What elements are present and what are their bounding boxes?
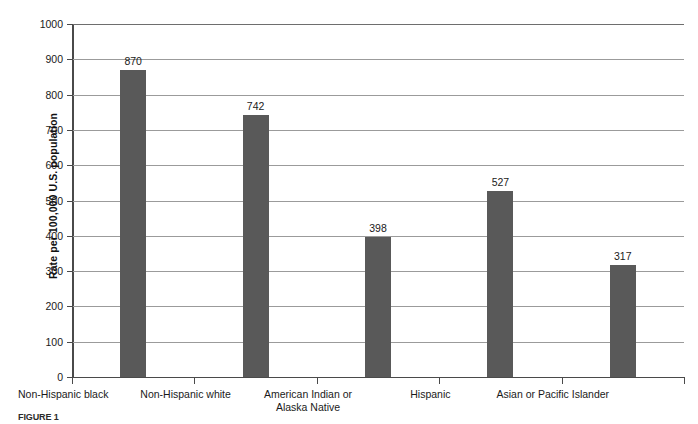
y-tick-label-600: 600 [45,159,63,171]
y-tick-700 [67,130,73,131]
x-axis-category-label-line1: Non-Hispanic white [116,388,256,401]
gridline-800 [72,95,684,96]
x-axis-category-label-line1: Asian or Pacific Islander [483,388,623,401]
x-axis-category-label-line1: Non-Hispanic black [0,388,133,401]
y-tick-label-400: 400 [45,230,63,242]
x-axis-category-label: Asian or Pacific Islander [483,388,623,401]
category-divider-tick [562,377,563,384]
y-tick-400 [67,236,73,237]
bar-value-label: 742 [247,100,265,112]
bar-value-label: 398 [369,222,387,234]
y-tick-300 [67,271,73,272]
y-tick-900 [67,59,73,60]
gridline-900 [72,59,684,60]
plot-area: 01002003004005006007008009001000870Non-H… [72,24,684,377]
bar-value-label: 870 [124,55,142,67]
y-tick-600 [67,165,73,166]
x-axis-category-label: Hispanic [360,388,500,401]
y-tick-label-800: 800 [45,89,63,101]
y-tick-200 [67,306,73,307]
gridline-700 [72,130,684,131]
category-divider-tick [317,377,318,384]
y-tick-800 [67,95,73,96]
bar[interactable] [487,191,513,377]
y-tick-100 [67,342,73,343]
x-axis-category-label-line1: American Indian or [238,388,378,401]
category-divider-tick [684,377,685,384]
figure-caption-label: FIGURE 1 [18,412,59,422]
gridline-1000 [72,24,684,25]
category-divider-tick [72,377,73,384]
y-tick-500 [67,201,73,202]
bar[interactable] [243,115,269,377]
x-axis-category-label: Non-Hispanic black [0,388,133,401]
y-tick-label-200: 200 [45,300,63,312]
y-tick-1000 [67,24,73,25]
bar[interactable] [610,265,636,377]
y-tick-label-100: 100 [45,336,63,348]
figure-container: Rate per 100,000 U.S. population 0100200… [0,0,698,424]
x-axis-category-label: Non-Hispanic white [116,388,256,401]
y-tick-label-500: 500 [45,195,63,207]
x-axis-category-label-line1: Hispanic [360,388,500,401]
gridline-600 [72,165,684,166]
gridline-0 [72,377,684,378]
y-tick-label-0: 0 [57,371,63,383]
bar-value-label: 317 [614,250,632,262]
gridline-500 [72,201,684,202]
y-tick-label-300: 300 [45,265,63,277]
x-axis-category-label: American Indian orAlaska Native [238,388,378,413]
y-tick-label-900: 900 [45,53,63,65]
category-divider-tick [439,377,440,384]
y-tick-label-1000: 1000 [40,18,63,30]
y-tick-label-700: 700 [45,124,63,136]
bar-value-label: 527 [492,176,510,188]
bar[interactable] [365,237,391,377]
category-divider-tick [194,377,195,384]
bar[interactable] [120,70,146,377]
figure-caption: FIGURE 1 [18,411,678,423]
